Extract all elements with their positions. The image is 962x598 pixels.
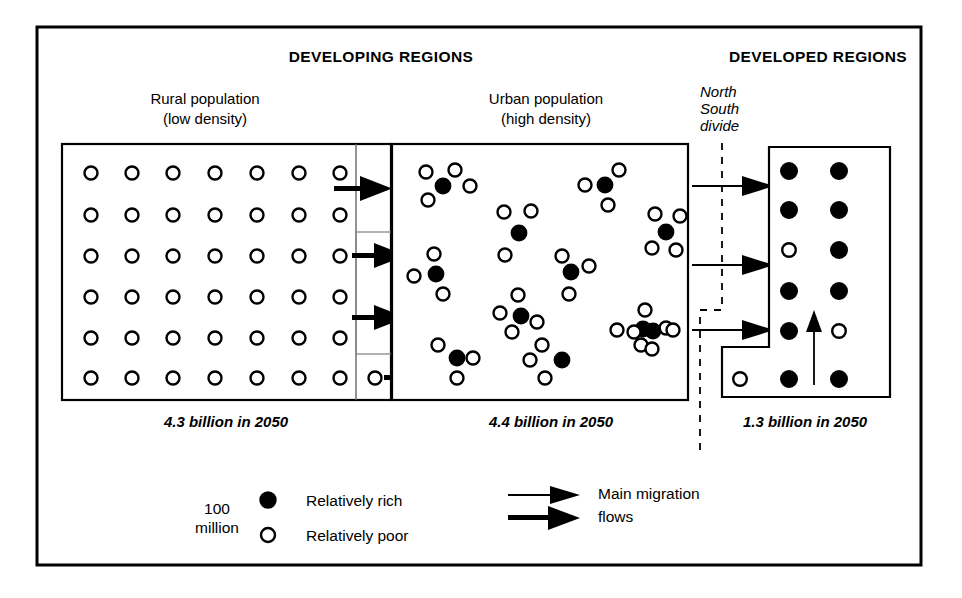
legend-scale-line2: million [195,519,239,536]
heading-developed: DEVELOPED REGIONS [729,48,907,65]
legend-poor-symbol [261,528,275,542]
legend-rich-symbol [260,492,275,507]
rural-box [62,144,391,400]
divide-label-line3: divide [700,117,739,134]
rural-label-line1: Rural population [150,90,259,107]
legend-rich-label: Relatively rich [306,492,402,509]
population-diagram: DEVELOPING REGIONS DEVELOPED REGIONS Rur… [0,0,962,598]
legend-flows-line1: Main migration [598,485,700,502]
rural-caption: 4.3 billion in 2050 [163,413,289,430]
diagram-canvas: DEVELOPING REGIONS DEVELOPED REGIONS Rur… [0,0,962,598]
legend-scale-line1: 100 [204,500,230,517]
rural-label-line2: (low density) [163,110,247,127]
legend-flows-line2: flows [598,508,634,525]
legend-poor-label: Relatively poor [306,527,409,544]
urban-label-line2: (high density) [501,110,591,127]
urban-label-line1: Urban population [489,90,603,107]
divide-label-line2: South [700,100,739,117]
urban-caption: 4.4 billion in 2050 [488,413,614,430]
heading-developing: DEVELOPING REGIONS [289,48,474,65]
developed-caption: 1.3 billion in 2050 [743,413,868,430]
divide-label-line1: North [700,83,737,100]
